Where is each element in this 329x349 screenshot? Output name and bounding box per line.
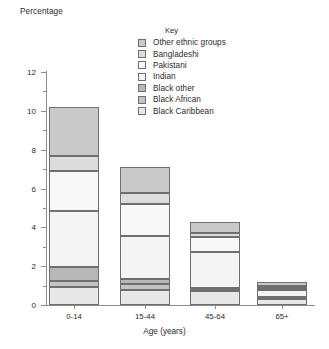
legend-item-label: Black African xyxy=(153,95,201,104)
legend-swatch xyxy=(138,73,146,81)
bar-segment xyxy=(190,222,240,232)
legend-items: Other ethnic groupsBangladeshiPakistaniI… xyxy=(138,37,226,117)
x-tick-mark xyxy=(215,305,216,309)
y-axis-ticks: 024681012 xyxy=(0,0,47,349)
bar-segment xyxy=(49,171,99,211)
legend-item-label: Other ethnic groups xyxy=(153,38,226,47)
x-tick-label: 0-14 xyxy=(66,312,82,321)
y-tick-mark xyxy=(41,266,46,267)
x-axis-title: Age (years) xyxy=(0,327,329,336)
stacked-bar-chart: Percentage 024681012 0-1415-4445-6465+ A… xyxy=(0,0,329,349)
legend-item-label: Indian xyxy=(153,72,176,81)
legend-item: Indian xyxy=(138,71,226,82)
bar-segment xyxy=(190,233,240,238)
bar-0-14 xyxy=(49,72,99,305)
y-tick-label: 4 xyxy=(10,223,36,232)
bar-segment xyxy=(49,107,99,156)
bar-segment xyxy=(190,237,240,252)
y-tick-mark xyxy=(41,305,46,306)
bar-segment xyxy=(120,284,170,291)
x-tick-label: 45-64 xyxy=(205,312,225,321)
legend-item-label: Pakistani xyxy=(153,61,187,70)
bar-segment xyxy=(257,282,307,286)
y-tick-mark-minor xyxy=(43,130,46,131)
y-tick-mark-minor xyxy=(43,91,46,92)
legend-item: Black Caribbean xyxy=(138,105,226,116)
bar-segment xyxy=(190,291,240,305)
bar-segment xyxy=(120,236,170,279)
legend-item-label: Black Caribbean xyxy=(153,107,214,116)
bar-segment xyxy=(49,281,99,287)
bar-segment xyxy=(190,289,240,291)
legend-item: Pakistani xyxy=(138,60,226,71)
legend-swatch xyxy=(138,84,146,92)
bar-segment xyxy=(120,193,170,204)
y-tick-mark-minor xyxy=(43,208,46,209)
legend-swatch xyxy=(138,96,146,104)
bar-65+ xyxy=(257,72,307,305)
y-tick-label: 2 xyxy=(10,262,36,271)
bar-segment xyxy=(190,252,240,288)
x-tick-label: 15-44 xyxy=(135,312,155,321)
x-tick-mark xyxy=(74,305,75,309)
legend-item-label: Black other xyxy=(153,84,195,93)
bar-segment xyxy=(49,211,99,267)
legend-title: Key xyxy=(165,26,178,35)
legend-swatch xyxy=(138,107,146,115)
x-tick-mark xyxy=(282,305,283,309)
bar-segment xyxy=(49,267,99,281)
bar-segment xyxy=(120,167,170,193)
legend-item: Black African xyxy=(138,94,226,105)
x-tick-label: 65+ xyxy=(275,312,288,321)
bar-segment xyxy=(120,290,170,305)
bar-segment xyxy=(257,286,307,288)
y-tick-mark xyxy=(41,227,46,228)
bar-segment xyxy=(49,156,99,172)
bar-segment xyxy=(120,279,170,284)
y-tick-label: 10 xyxy=(10,106,36,115)
legend-item: Other ethnic groups xyxy=(138,37,226,48)
bar-segment xyxy=(120,204,170,236)
y-tick-mark xyxy=(41,72,46,73)
bar-segment xyxy=(49,287,99,305)
y-tick-mark xyxy=(41,111,46,112)
y-tick-label: 0 xyxy=(10,301,36,310)
y-tick-mark-minor xyxy=(43,286,46,287)
bar-segment xyxy=(257,288,307,291)
y-tick-label: 6 xyxy=(10,184,36,193)
x-axis-line xyxy=(46,305,315,306)
y-tick-label: 8 xyxy=(10,145,36,154)
legend-swatch xyxy=(138,61,146,69)
legend-item: Bangladeshi xyxy=(138,48,226,59)
legend-item: Black other xyxy=(138,83,226,94)
y-tick-mark xyxy=(41,150,46,151)
legend-item-label: Bangladeshi xyxy=(153,50,199,59)
y-tick-label: 12 xyxy=(10,68,36,77)
x-tick-mark xyxy=(145,305,146,309)
legend-swatch xyxy=(138,39,146,47)
y-tick-mark xyxy=(41,189,46,190)
bar-segment xyxy=(257,290,307,297)
y-tick-mark-minor xyxy=(43,169,46,170)
y-tick-mark-minor xyxy=(43,247,46,248)
legend-swatch xyxy=(138,50,146,58)
